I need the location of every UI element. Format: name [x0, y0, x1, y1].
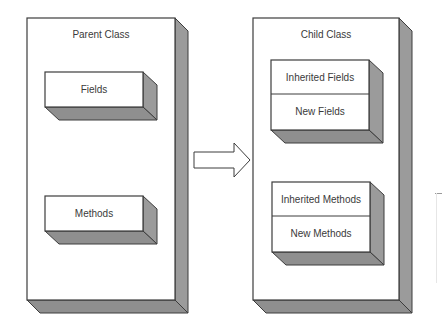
parent-box-face	[27, 18, 175, 300]
child-fields-side	[369, 60, 383, 143]
inheritance-arrow-icon	[194, 143, 250, 177]
parent-fields-box	[45, 72, 157, 120]
parent-class-title: Parent Class	[27, 30, 175, 40]
child-methods-bottom	[272, 252, 384, 265]
child-new-methods-label: New Methods	[272, 229, 370, 239]
child-methods-face	[272, 182, 370, 252]
child-box-side	[399, 18, 412, 313]
parent-class-box	[27, 18, 188, 313]
parent-box-side	[175, 18, 188, 313]
child-new-fields-label: New Fields	[271, 107, 369, 117]
parent-fields-label: Fields	[45, 85, 143, 95]
parent-box-bottom	[27, 300, 188, 313]
parent-methods-box	[45, 196, 157, 244]
diagram-canvas	[0, 0, 442, 333]
cropped-border-edge	[436, 193, 437, 283]
child-inherited-methods-label: Inherited Methods	[272, 195, 370, 205]
parent-methods-label: Methods	[45, 209, 143, 219]
child-box-bottom	[253, 300, 412, 313]
parent-methods-bottom	[45, 231, 157, 244]
child-methods-side	[370, 182, 384, 265]
child-inherited-fields-label: Inherited Fields	[271, 73, 369, 83]
child-fields-bottom	[271, 130, 383, 143]
child-fields-face	[271, 60, 369, 130]
parent-fields-bottom	[45, 107, 157, 120]
inheritance-diagram: Parent Class Fields Methods Child Class …	[0, 0, 442, 333]
child-class-title: Child Class	[253, 30, 399, 40]
